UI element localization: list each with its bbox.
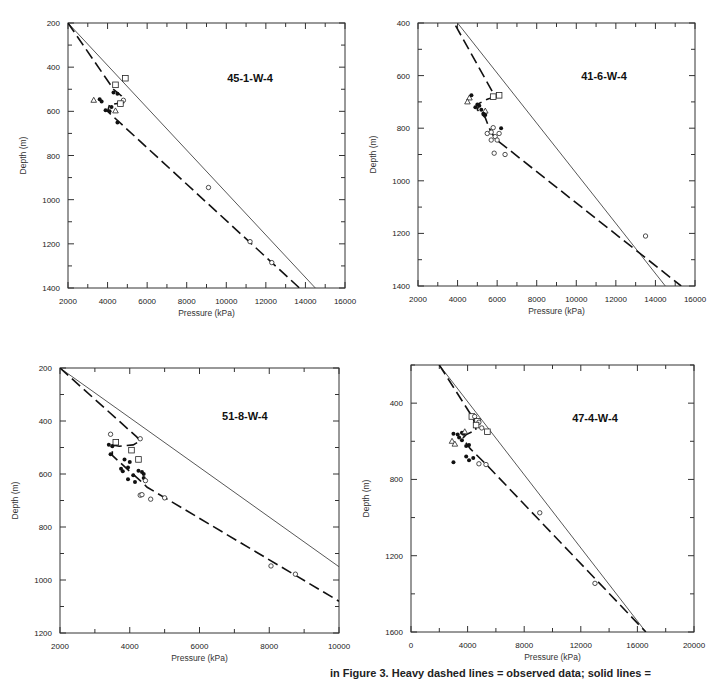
chart-41-6-W-4: 2000400060008000100001200014000160004006… (368, 19, 707, 316)
data-point (593, 581, 597, 585)
figure-canvas: 2000400060008000100001200014000160002004… (0, 0, 722, 679)
y-tick-label: 1200 (392, 229, 410, 238)
x-tick-label: 4000 (459, 641, 477, 650)
data-point (112, 91, 116, 95)
y-tick-label: 800 (397, 124, 411, 133)
x-axis-label: Pressure (kPa) (178, 308, 235, 318)
x-tick-label: 8000 (260, 642, 278, 651)
data-point (451, 460, 455, 464)
data-point (472, 414, 476, 418)
data-point (477, 104, 481, 108)
y-axis-label: Depth (m) (10, 481, 20, 519)
chart-title: 41-6-W-4 (581, 70, 628, 82)
y-tick-label: 800 (39, 523, 53, 532)
x-tick-label: 6000 (191, 642, 209, 651)
data-point (473, 422, 479, 428)
data-point (110, 444, 114, 448)
data-point (136, 469, 140, 473)
data-point (118, 101, 124, 107)
x-tick-label: 10000 (215, 297, 238, 306)
x-tick-label: 12000 (605, 295, 628, 304)
y-tick-label: 1200 (42, 240, 60, 249)
data-point (467, 458, 471, 462)
data-point (140, 492, 144, 496)
data-point (460, 438, 464, 442)
y-tick-label: 1000 (392, 177, 410, 186)
chart-title: 45-1-W-4 (227, 72, 274, 84)
data-point (138, 437, 142, 441)
x-tick-label: 2000 (51, 642, 69, 651)
data-point (489, 138, 493, 142)
data-point (129, 447, 135, 453)
data-point (131, 473, 135, 477)
chart-47-4-W-4: 04000800012000160002000040080012001600Pr… (361, 365, 706, 662)
data-point (206, 185, 210, 189)
data-point (503, 152, 507, 156)
solid-line (60, 368, 339, 567)
data-point (490, 94, 496, 100)
chart-45-1-W-4: 2000400060008000100001200014000160002004… (18, 19, 357, 318)
data-point (108, 432, 112, 436)
plot-frame (418, 23, 695, 286)
dashed-line (68, 23, 299, 288)
data-point (126, 465, 130, 469)
data-point (270, 260, 274, 264)
y-tick-label: 400 (397, 19, 411, 28)
x-tick-label: 10000 (328, 642, 351, 651)
data-point (91, 97, 97, 102)
data-point (100, 99, 104, 103)
y-tick-label: 1400 (42, 284, 60, 293)
x-tick-label: 16000 (684, 295, 707, 304)
solid-line (439, 365, 646, 632)
data-point (473, 105, 477, 109)
data-point (496, 93, 502, 99)
y-tick-label: 400 (390, 399, 404, 408)
data-point (115, 120, 119, 124)
y-tick-label: 600 (39, 470, 53, 479)
y-tick-label: 400 (39, 417, 53, 426)
y-axis-label: Depth (m) (18, 136, 28, 174)
x-tick-label: 2000 (59, 297, 77, 306)
x-tick-label: 14000 (644, 295, 667, 304)
x-tick-label: 8000 (178, 297, 196, 306)
data-point (107, 443, 111, 447)
x-tick-label: 20000 (683, 641, 706, 650)
chart-title: 47-4-W-4 (572, 412, 619, 424)
data-point (479, 108, 483, 112)
data-point (499, 126, 503, 130)
y-tick-label: 1200 (34, 629, 52, 638)
plot-frame (411, 365, 694, 632)
data-point (467, 443, 471, 447)
chart-title: 51-8-W-4 (222, 410, 269, 422)
y-axis-label: Depth (m) (368, 135, 378, 173)
data-point (643, 234, 647, 238)
data-point (148, 497, 152, 501)
data-point (269, 564, 273, 568)
dashed-line (456, 26, 682, 286)
data-point (451, 432, 455, 436)
plot-frame (60, 368, 339, 633)
x-tick-label: 8000 (528, 295, 546, 304)
solid-line (68, 23, 315, 288)
x-tick-label: 4000 (99, 297, 117, 306)
data-point (471, 456, 475, 460)
x-axis-label: Pressure (kPa) (524, 652, 581, 662)
data-point (538, 511, 542, 515)
dashed-line (60, 368, 339, 601)
data-point (123, 457, 127, 461)
y-axis-label: Depth (m) (361, 479, 371, 517)
data-point (484, 462, 488, 466)
y-tick-label: 200 (39, 364, 53, 373)
x-tick-label: 12000 (255, 297, 278, 306)
data-point (483, 113, 487, 117)
chart-51-8-W-4: 2000400060008000100002004006008001000120… (10, 364, 351, 663)
x-tick-label: 4000 (449, 295, 467, 304)
data-point (108, 109, 112, 113)
data-point (480, 426, 484, 430)
data-point (248, 239, 252, 243)
y-tick-label: 1200 (385, 552, 403, 561)
data-point (485, 429, 491, 435)
solid-line (458, 23, 666, 286)
y-tick-label: 600 (397, 72, 411, 81)
x-tick-label: 4000 (121, 642, 139, 651)
